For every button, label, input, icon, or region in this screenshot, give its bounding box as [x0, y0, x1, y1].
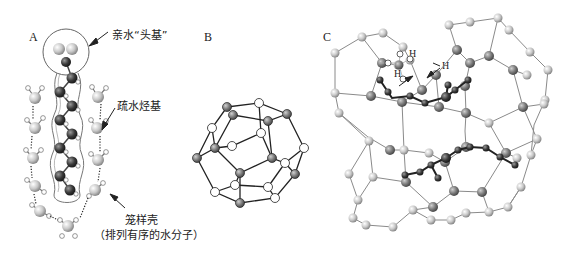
panel-c-clathrate — [331, 14, 553, 232]
panel-b-dodecahedron — [0, 0, 309, 208]
figure-graphics — [0, 0, 585, 258]
water-shell-right — [50, 85, 108, 239]
water-shell-left — [24, 86, 52, 219]
panel-a-surfactant — [24, 29, 125, 238]
clathrate-figure: A B C 亲水“头基” 疏水烃基 笼样壳 （排列有序的水分子） H H H — [0, 0, 585, 258]
